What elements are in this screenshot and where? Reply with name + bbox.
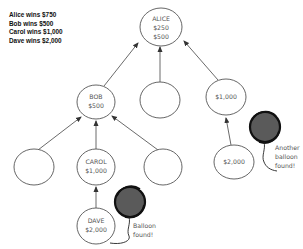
dave-amount: $2,000: [85, 226, 107, 233]
edge-left-to-bob: [38, 117, 81, 150]
right-bottom-amount: $2,000: [223, 158, 245, 165]
edge-bottomright-to-topright: [226, 118, 231, 145]
bob-name: BOB: [89, 93, 102, 100]
alice-amount-2: $500: [153, 33, 169, 40]
edges: [38, 41, 231, 208]
balloon1-line2: found!: [133, 231, 153, 238]
dave-name: DAVE: [88, 217, 105, 224]
edge-rightempty-to-bob: [112, 116, 158, 150]
right-top-amount: $1,000: [215, 93, 237, 100]
carol-amount: $1,000: [85, 167, 107, 174]
edge-bob-to-alice: [104, 43, 138, 86]
balloon1-line1: Balloon: [133, 222, 156, 229]
tree-graphic: ALICE $250 $500 BOB $500 $1,000 CAROL $1…: [0, 0, 303, 249]
node-left-empty: [14, 149, 54, 185]
node-right-empty: [144, 149, 182, 185]
edge-right-to-alice: [184, 41, 218, 80]
balloon2-line2: balloon: [275, 153, 298, 160]
balloon2-line1: Another: [275, 144, 300, 151]
carol-name: CAROL: [85, 158, 107, 165]
alice-name: ALICE: [152, 15, 170, 22]
referral-tree-diagram: Alice wins $750 Bob wins $500 Carol wins…: [0, 0, 303, 249]
alice-amount-1: $250: [153, 24, 169, 31]
bob-amount: $500: [88, 102, 104, 109]
balloon2-line3: found!: [275, 162, 295, 169]
node-middle-empty: [140, 82, 180, 118]
